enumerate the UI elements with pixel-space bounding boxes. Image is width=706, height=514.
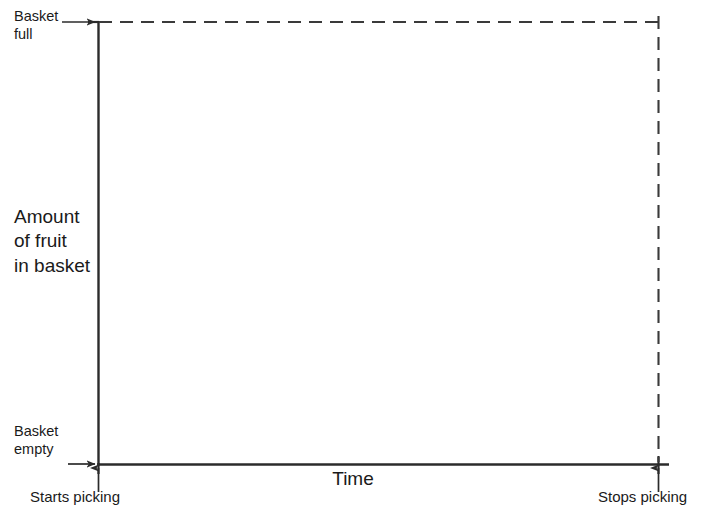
y-axis-min-label-line1: Basket: [14, 423, 58, 439]
x-axis-title: Time: [0, 467, 706, 490]
axes-drawing: [0, 0, 706, 514]
fruit-picking-graph: Basketfull Basketempty Amountof fruitin …: [0, 0, 706, 514]
y-axis-min-label: Basketempty: [14, 423, 58, 458]
y-axis-title-line2: of fruit: [14, 230, 67, 251]
y-axis-title-line3: in basket: [14, 255, 90, 276]
x-axis-start-label: Starts picking: [30, 488, 120, 506]
y-axis-min-label-line2: empty: [14, 441, 54, 457]
y-axis-max-label: Basketfull: [14, 8, 58, 43]
y-axis-max-label-line2: full: [14, 26, 33, 42]
y-axis-title-line1: Amount: [14, 206, 79, 227]
y-axis-title: Amountof fruitin basket: [14, 205, 90, 278]
y-axis-max-label-line1: Basket: [14, 8, 58, 24]
x-axis-end-label: Stops picking: [598, 488, 687, 506]
